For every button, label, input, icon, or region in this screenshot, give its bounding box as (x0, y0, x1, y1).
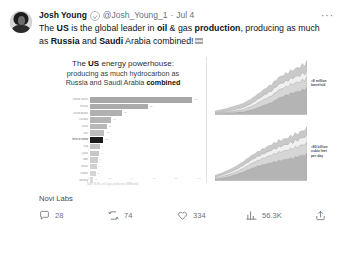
like-count: 334 (193, 211, 206, 220)
bar-label: Brazil (47, 165, 90, 168)
bar-track: 12 (90, 137, 201, 143)
bar-chart-title: The US energy powerhouse: producing as m… (39, 53, 207, 88)
text-seg-1: The (39, 23, 57, 33)
bar-value: 6 (99, 164, 100, 170)
bar-value: 7 (100, 157, 101, 163)
separator-dot: · (170, 10, 173, 21)
text-seg-5: and (80, 36, 100, 46)
bar-track: 15 (90, 124, 201, 130)
bar-label: United States (47, 98, 90, 101)
oil-annotation: ≈8 millionbarrels/d (311, 79, 327, 88)
x-tick-label: 20 (109, 177, 112, 180)
bar-chart-bars: United States92Russia52Saudi Arabia29Can… (47, 97, 201, 173)
bar-value: 19 (113, 117, 116, 123)
bar (90, 137, 103, 143)
bar-value: 9 (102, 144, 103, 150)
gas-annot-l3: per day (311, 154, 323, 158)
gas-annot-l2: cubic feet (311, 149, 327, 153)
avatar[interactable] (10, 11, 32, 33)
bar-label: Iraq (47, 145, 90, 148)
text-bold-oil: oil (157, 23, 167, 33)
bar-track: 9 (90, 144, 201, 150)
oil-annot-l1: ≈8 million (311, 79, 327, 83)
bar-track: 92 (90, 97, 201, 103)
bar-label: Kuwait (47, 172, 90, 175)
bar (90, 130, 104, 136)
x-tick-label: 100 (197, 177, 201, 180)
bar-value: 29 (124, 110, 127, 116)
views-button[interactable]: 56.3K (246, 210, 315, 221)
bar (90, 151, 99, 157)
bar (90, 104, 148, 110)
tweet-media-image[interactable]: The US energy powerhouse: producing as m… (39, 53, 344, 187)
panel-divider (206, 57, 207, 183)
media-credit: Novi Labs (39, 194, 334, 203)
reply-button[interactable]: 28 (39, 210, 108, 221)
bar-row: Canada19 (47, 117, 201, 123)
bar (90, 110, 122, 116)
author-line: Josh Young @Josh_Young_1 · Jul 4 (39, 10, 334, 21)
bar-row: Iran13 (47, 130, 201, 136)
repost-button[interactable]: 74 (108, 210, 177, 221)
gas-annot-l1: ≈80 billion (311, 145, 328, 149)
tweet-date[interactable]: Jul 4 (176, 10, 194, 21)
flag-emoji-icon (195, 38, 203, 44)
bar-track: 8 (90, 151, 201, 157)
bar-track: 5 (90, 171, 201, 177)
text-seg-6: Arabia combined! (123, 36, 193, 46)
area-charts-panel: ≈8 millionbarrels/d ≈80 billioncubic fee… (215, 53, 344, 187)
chart-subtitle-1: producing as much hydrocarbon as (49, 69, 197, 79)
bar-value: 92 (194, 97, 197, 103)
text-seg-2: is the global leader in (69, 23, 157, 33)
bar-label: Saudi Arabia (47, 112, 90, 115)
bar-label: China (47, 125, 90, 128)
bar-value: 5 (98, 171, 99, 177)
text-bold-saudi: Saudi (99, 36, 123, 46)
bar-label: Iran (47, 132, 90, 135)
gas-annotation: ≈80 billioncubic feetper day (311, 145, 328, 158)
bar-row: China15 (47, 124, 201, 130)
like-button[interactable]: 334 (177, 210, 246, 221)
bar-row: Iraq9 (47, 144, 201, 150)
chart-title-pre: The (72, 59, 88, 68)
bar-value: 13 (106, 130, 109, 136)
reply-count: 28 (55, 211, 63, 220)
bar-label: Rest of World (47, 138, 90, 141)
bar-label: Norway (47, 179, 90, 182)
repost-count: 74 (124, 211, 132, 220)
bar (90, 117, 111, 123)
bar-label: Canada (47, 118, 90, 121)
tweet-actions: 28 74 334 56.3K (39, 210, 331, 221)
bar-value: 12 (105, 137, 108, 143)
chart-title-us: US (88, 59, 99, 68)
bar (90, 97, 192, 103)
share-icon (315, 210, 326, 221)
bar-label: Qatar (47, 152, 90, 155)
x-tick-label: 80 (175, 177, 178, 180)
gas-area-chart-svg (215, 123, 307, 181)
bar (90, 164, 97, 170)
author-display-name[interactable]: Josh Young (39, 10, 87, 21)
text-bold-us: US (57, 23, 69, 33)
bar-row: Qatar8 (47, 151, 201, 157)
bar-row: United States92 (47, 97, 201, 103)
gas-area-chart (215, 123, 307, 181)
bar-track: 7 (90, 157, 201, 163)
bar-track: 19 (90, 117, 201, 123)
oil-area-chart-svg (215, 57, 307, 115)
bar-row: Russia52 (47, 104, 201, 110)
text-bold-russia: Russia (51, 36, 80, 46)
comment-icon (39, 210, 50, 221)
tweet-text: The US is the global leader in oil & gas… (39, 22, 331, 47)
bar-row: Kuwait5 (47, 171, 201, 177)
bar-row: UAE7 (47, 157, 201, 163)
x-tick-label: 0 (88, 177, 89, 180)
share-button[interactable] (315, 210, 331, 221)
text-seg-3: & gas (167, 23, 194, 33)
views-count: 56.3K (262, 211, 282, 220)
author-handle[interactable]: @Josh_Young_1 (103, 10, 168, 21)
bar-value: 15 (109, 124, 112, 130)
avatar-body (11, 25, 31, 33)
bar-track: 29 (90, 110, 201, 116)
more-options-button[interactable]: ··· (321, 12, 334, 20)
